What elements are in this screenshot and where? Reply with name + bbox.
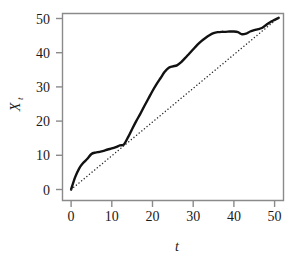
y-axis-title-main: X	[8, 102, 23, 112]
y-ticklabel-20: 20	[36, 114, 50, 129]
y-ticklabel-10: 10	[36, 148, 50, 163]
x-ticklabel-40: 40	[227, 209, 241, 224]
x-ticklabel-30: 30	[186, 209, 200, 224]
y-ticklabel-40: 40	[36, 46, 50, 61]
x-ticklabel-10: 10	[105, 209, 119, 224]
plot-canvas: 50 40 30 20 10 0 0 10 20 30 40 50 t	[0, 0, 299, 263]
y-ticklabel-50: 50	[36, 12, 50, 27]
x-ticklabel-20: 20	[146, 209, 160, 224]
x-ticklabel-0: 0	[68, 209, 75, 224]
x-ticklabel-50: 50	[268, 209, 282, 224]
y-ticklabel-30: 30	[36, 80, 50, 95]
y-ticklabel-0: 0	[43, 183, 50, 198]
chart-figure: 50 40 30 20 10 0 0 10 20 30 40 50 t	[0, 0, 299, 263]
